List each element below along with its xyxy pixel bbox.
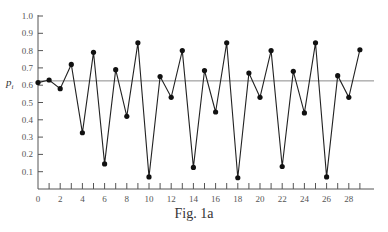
figure-caption: Fig. 1a: [0, 206, 388, 222]
data-point-marker: [169, 95, 174, 100]
data-point-marker: [280, 164, 285, 169]
y-tick-label: 0.5: [22, 98, 34, 108]
y-tick-label: 0.6: [22, 80, 34, 90]
x-tick-label: 14: [189, 194, 199, 204]
data-point-marker: [180, 48, 185, 53]
data-point-marker: [158, 74, 163, 79]
x-axis: 0246810121416182022242628: [36, 183, 374, 204]
x-tick-label: 26: [322, 194, 332, 204]
x-tick-label: 10: [145, 194, 155, 204]
y-tick-label: 0.7: [22, 63, 34, 73]
y-tick-label: 0.1: [22, 167, 33, 177]
data-point-marker: [102, 161, 107, 166]
data-point-marker: [357, 47, 362, 52]
data-points: [35, 40, 362, 180]
data-point-marker: [58, 86, 63, 91]
y-tick-label: 0.9: [22, 28, 34, 38]
data-point-marker: [124, 114, 129, 119]
data-point-marker: [291, 69, 296, 74]
data-point-marker: [91, 50, 96, 55]
data-point-marker: [191, 165, 196, 170]
x-tick-label: 8: [125, 194, 130, 204]
data-point-marker: [80, 130, 85, 135]
y-tick-label: 1.0: [22, 11, 34, 21]
x-tick-label: 22: [278, 194, 287, 204]
data-point-marker: [269, 48, 274, 53]
data-point-marker: [35, 80, 40, 85]
data-point-marker: [113, 67, 118, 72]
x-tick-label: 18: [233, 194, 243, 204]
x-tick-label: 6: [102, 194, 107, 204]
y-tick-label: 0.8: [22, 46, 34, 56]
data-point-marker: [235, 175, 240, 180]
y-axis-label-sub: i: [12, 83, 14, 91]
y-axis: 0.10.20.30.40.50.60.70.80.91.0: [22, 11, 43, 189]
x-tick-label: 0: [36, 194, 41, 204]
x-tick-label: 4: [80, 194, 85, 204]
data-point-marker: [313, 40, 318, 45]
x-tick-label: 20: [256, 194, 266, 204]
data-point-marker: [213, 109, 218, 114]
x-tick-label: 2: [58, 194, 63, 204]
data-point-marker: [224, 40, 229, 45]
data-point-marker: [302, 110, 307, 115]
data-point-marker: [135, 40, 140, 45]
data-point-marker: [47, 77, 52, 82]
data-point-marker: [346, 95, 351, 100]
x-tick-label: 16: [211, 194, 221, 204]
data-point-marker: [335, 73, 340, 78]
data-point-marker: [69, 62, 74, 67]
data-series-line: [38, 43, 360, 178]
data-point-marker: [146, 174, 151, 179]
x-tick-label: 24: [300, 194, 310, 204]
x-tick-label: 28: [344, 194, 354, 204]
data-point-marker: [257, 95, 262, 100]
x-tick-label: 12: [167, 194, 176, 204]
data-point-marker: [324, 174, 329, 179]
data-point-marker: [246, 70, 251, 75]
line-chart: 0.10.20.30.40.50.60.70.80.91.0 024681012…: [0, 0, 388, 232]
y-tick-label: 0.3: [22, 132, 34, 142]
y-tick-label: 0.4: [22, 115, 34, 125]
data-point-marker: [202, 68, 207, 73]
y-tick-label: 0.2: [22, 149, 33, 159]
y-axis-label: pi: [5, 76, 14, 91]
